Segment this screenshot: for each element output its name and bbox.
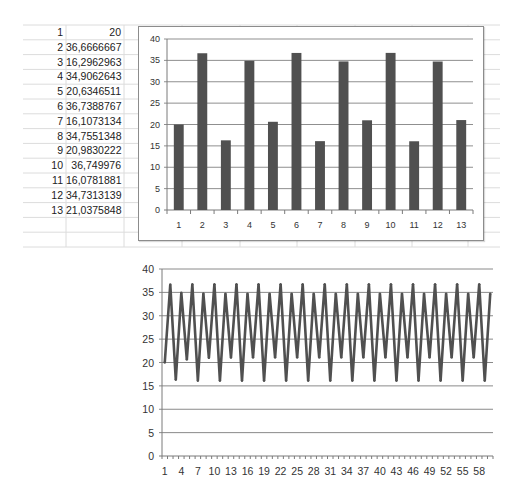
- line-point: [484, 380, 486, 382]
- x-tick-label: 8: [341, 220, 346, 230]
- cell-value[interactable]: 21,0375848: [66, 203, 121, 218]
- line-point: [373, 380, 375, 382]
- sheet-row: 920,9830222: [0, 143, 130, 158]
- bar-3[interactable]: [221, 140, 231, 210]
- x-tick-label: 28: [308, 465, 320, 477]
- cell-index[interactable]: 6: [25, 99, 63, 114]
- cell-value[interactable]: 16,0781881: [66, 173, 121, 188]
- cell-value[interactable]: 36,749976: [66, 158, 121, 173]
- line-point: [219, 380, 221, 382]
- x-tick-label: 5: [270, 220, 275, 230]
- bar-5[interactable]: [268, 122, 278, 210]
- line-point: [428, 356, 430, 358]
- y-tick-label: 10: [142, 403, 154, 415]
- line-point: [368, 283, 370, 285]
- x-tick-label: 12: [433, 220, 443, 230]
- cell-index[interactable]: 12: [25, 188, 63, 203]
- line-point: [213, 283, 215, 285]
- bar-chart-plot: 051015202530354012345678910111213: [139, 27, 483, 240]
- x-tick-label: 7: [317, 220, 322, 230]
- bar-10[interactable]: [386, 53, 396, 210]
- sheet-row: 1116,0781881: [0, 173, 130, 188]
- line-point: [191, 283, 193, 285]
- y-tick-label: 25: [142, 333, 154, 345]
- sheet-row: 120: [0, 25, 130, 40]
- line-point: [279, 283, 281, 285]
- line-point: [346, 283, 348, 285]
- cell-value[interactable]: 20,6346511: [66, 84, 121, 99]
- cell-value[interactable]: 34,7313139: [66, 188, 121, 203]
- y-tick-label: 40: [150, 34, 160, 44]
- line-point: [456, 283, 458, 285]
- line-point: [241, 380, 243, 382]
- cell-value[interactable]: 36,7388767: [66, 99, 121, 114]
- line-point: [335, 292, 337, 294]
- cell-index[interactable]: 8: [25, 129, 63, 144]
- line-point: [395, 380, 397, 382]
- cell-value[interactable]: 36,6666667: [66, 40, 121, 55]
- x-tick-label: 4: [178, 465, 184, 477]
- series-line[interactable]: [165, 284, 490, 381]
- line-point: [274, 356, 276, 358]
- line-point: [197, 379, 199, 381]
- line-point: [340, 356, 342, 358]
- line-point: [401, 292, 403, 294]
- sheet-row: 520,6346511: [0, 84, 130, 99]
- line-point: [224, 292, 226, 294]
- cell-value[interactable]: 16,1073134: [66, 114, 121, 129]
- bar-8[interactable]: [339, 61, 349, 210]
- cell-index[interactable]: 11: [25, 173, 63, 188]
- y-tick-label: 30: [150, 77, 160, 87]
- cell-value[interactable]: 34,9062643: [66, 69, 121, 84]
- bar-2[interactable]: [197, 53, 207, 210]
- sheet-row: 1234,7313139: [0, 188, 130, 203]
- cell-value[interactable]: 20,9830222: [66, 143, 121, 158]
- x-tick-label: 13: [456, 220, 466, 230]
- cell-value[interactable]: 20: [66, 25, 121, 40]
- cell-index[interactable]: 1: [25, 25, 63, 40]
- bar-chart[interactable]: 051015202530354012345678910111213: [138, 26, 484, 241]
- sheet-row: 1321,0375848: [0, 203, 130, 218]
- bar-9[interactable]: [362, 120, 372, 210]
- x-tick-label: 58: [473, 465, 485, 477]
- bar-4[interactable]: [244, 61, 254, 210]
- y-tick-label: 0: [155, 205, 160, 215]
- line-chart-plot: 0510152025303540147101316192225283134374…: [130, 260, 514, 488]
- bar-7[interactable]: [315, 141, 325, 210]
- line-chart[interactable]: 0510152025303540147101316192225283134374…: [130, 260, 514, 488]
- line-point: [313, 292, 315, 294]
- x-tick-label: 11: [409, 220, 418, 230]
- line-point: [390, 283, 392, 285]
- x-tick-label: 22: [275, 465, 287, 477]
- x-tick-label: 37: [358, 465, 370, 477]
- line-point: [412, 283, 414, 285]
- line-point: [290, 292, 292, 294]
- line-point: [472, 356, 474, 358]
- line-point: [329, 380, 331, 382]
- cell-index[interactable]: 5: [25, 84, 63, 99]
- line-point: [301, 283, 303, 285]
- cell-index[interactable]: 9: [25, 143, 63, 158]
- cell-value[interactable]: 16,2962963: [66, 55, 121, 70]
- sheet-row: 636,7388767: [0, 99, 130, 114]
- cell-value[interactable]: 34,7551348: [66, 129, 121, 144]
- cell-index[interactable]: 10: [25, 158, 63, 173]
- y-tick-label: 25: [150, 98, 160, 108]
- line-point: [384, 356, 386, 358]
- x-tick-label: 34: [341, 465, 353, 477]
- cell-index[interactable]: 3: [25, 55, 63, 70]
- cell-index[interactable]: 4: [25, 69, 63, 84]
- line-point: [296, 356, 298, 358]
- x-tick-label: 46: [407, 465, 419, 477]
- bar-13[interactable]: [456, 120, 466, 210]
- cell-index[interactable]: 2: [25, 40, 63, 55]
- bar-12[interactable]: [433, 62, 443, 210]
- bar-6[interactable]: [292, 53, 302, 210]
- line-point: [439, 380, 441, 382]
- cell-index[interactable]: 13: [25, 203, 63, 218]
- bar-11[interactable]: [409, 141, 419, 210]
- cell-index[interactable]: 7: [25, 114, 63, 129]
- x-tick-label: 13: [225, 465, 237, 477]
- y-tick-label: 35: [150, 55, 160, 65]
- bar-1[interactable]: [174, 125, 184, 211]
